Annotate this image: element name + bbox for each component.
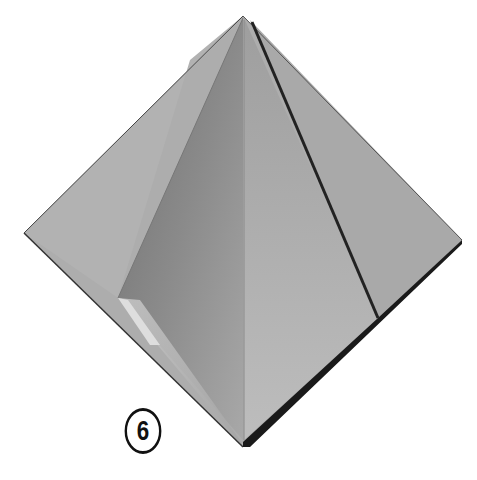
origami-figure (0, 0, 477, 480)
step-number: 6 (137, 415, 149, 447)
step-number-badge: 6 (125, 408, 162, 454)
